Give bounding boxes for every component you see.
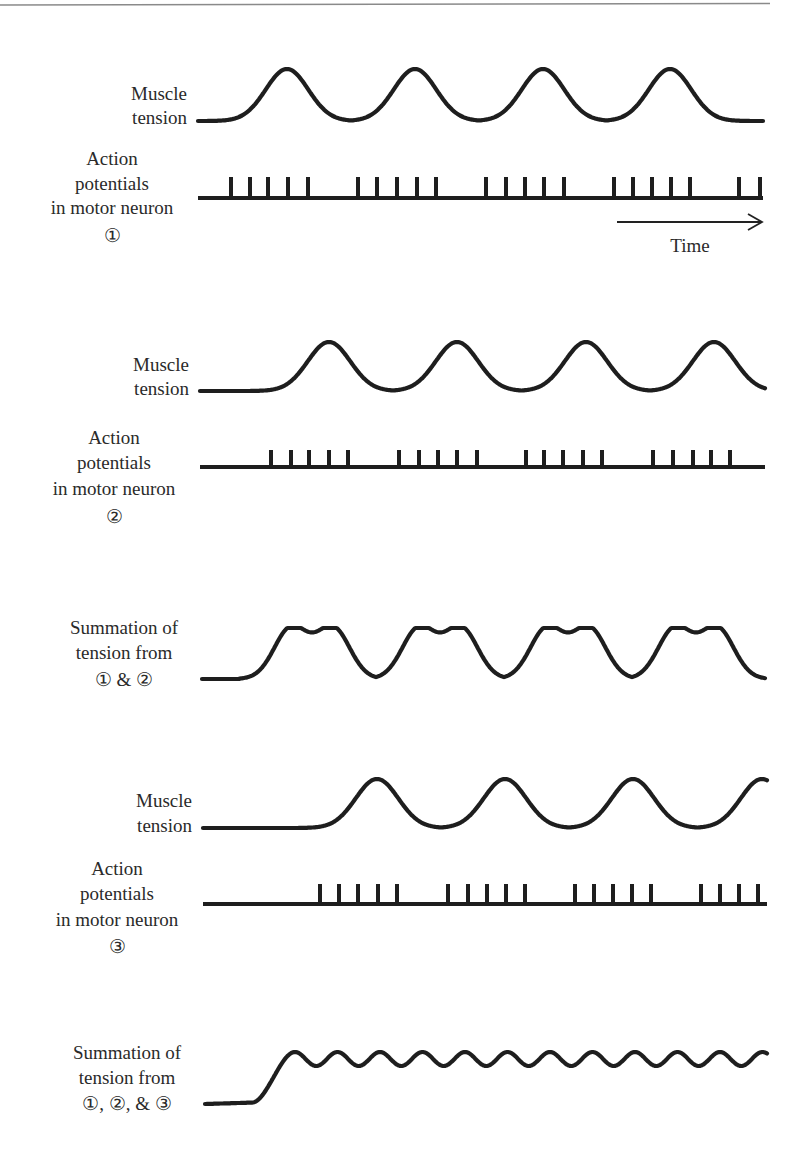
top-rule — [0, 4, 770, 6]
action-potential-train-3 — [203, 884, 767, 904]
panel-neuron-3: Muscle tension Action potentials in moto… — [56, 779, 767, 957]
neuron-number-1: ① — [104, 225, 121, 246]
tension-label-line2: tension — [134, 378, 189, 399]
summation-curve-1-2 — [202, 628, 765, 679]
ap-label-line1: Action — [86, 148, 138, 169]
tension-label-line1: Muscle — [131, 83, 187, 104]
ap-label-line2: potentials — [77, 452, 151, 473]
motor-unit-summation-figure: Muscle tension Action potentials in moto… — [0, 0, 809, 1170]
panel-summation-1-2: Summation of tension from ① & ② — [70, 617, 765, 690]
tension-label-line1: Muscle — [133, 354, 189, 375]
time-axis-label: Time — [670, 235, 709, 256]
summation-label-line2: tension from — [76, 642, 173, 663]
summation-label-line1: Summation of — [73, 1042, 182, 1063]
neuron-number-3: ③ — [109, 936, 126, 957]
panel-neuron-1: Muscle tension Action potentials in moto… — [51, 69, 763, 256]
muscle-tension-curve-2 — [200, 342, 765, 391]
tension-label-line2: tension — [132, 107, 187, 128]
panel-neuron-2: Muscle tension Action potentials in moto… — [53, 342, 765, 527]
ap-label-line3: in motor neuron — [56, 909, 179, 930]
tension-label-line1: Muscle — [136, 790, 192, 811]
muscle-tension-curve-1 — [198, 69, 763, 121]
summation-label-line3: ① & ② — [95, 669, 153, 690]
panel-summation-1-2-3: Summation of tension from ①, ②, & ③ — [73, 1042, 767, 1114]
ap-label-line3: in motor neuron — [51, 197, 174, 218]
summation-label-line2: tension from — [79, 1067, 176, 1088]
neuron-number-2: ② — [106, 506, 123, 527]
summation-curve-1-2-3 — [205, 1052, 767, 1104]
muscle-tension-curve-3 — [203, 779, 767, 828]
ap-label-line2: potentials — [80, 883, 154, 904]
ap-label-line1: Action — [91, 858, 143, 879]
action-potential-train-1 — [198, 177, 763, 198]
summation-label-line3: ①, ②, & ③ — [82, 1093, 172, 1114]
ap-label-line2: potentials — [75, 173, 149, 194]
ap-label-line1: Action — [88, 427, 140, 448]
ap-label-line3: in motor neuron — [53, 478, 176, 499]
action-potential-train-2 — [200, 450, 765, 467]
tension-label-line2: tension — [137, 815, 192, 836]
summation-label-line1: Summation of — [70, 617, 179, 638]
